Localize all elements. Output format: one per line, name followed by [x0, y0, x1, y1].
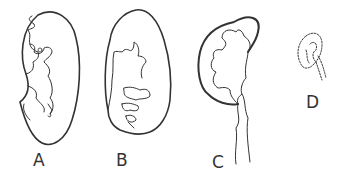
- kidney-drawing-a: [20, 12, 79, 144]
- panel-label-d: D: [306, 92, 319, 112]
- panel-label-a: A: [33, 150, 45, 170]
- kidney-drawing-d: [298, 33, 326, 80]
- panel-label-c: C: [212, 152, 224, 172]
- kidney-drawing-c: [198, 17, 258, 164]
- kidney-figure: [0, 0, 343, 186]
- panel-label-b: B: [116, 150, 128, 170]
- kidney-drawing-b: [105, 10, 171, 134]
